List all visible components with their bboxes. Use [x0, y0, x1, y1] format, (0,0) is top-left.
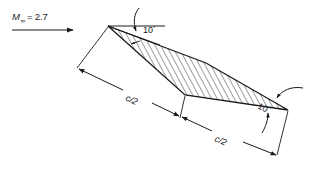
- airfoil-diagram-svg: M∞=2.7 10° 10°: [0, 0, 313, 178]
- trailing-edge-angle-arc-arrow-lower: [262, 113, 268, 133]
- aft-dim-line-right: [243, 142, 276, 155]
- le-angle-value: 10: [143, 25, 153, 35]
- forward-dim-extension-line-2: [180, 96, 185, 118]
- aft-dim-line-left: [182, 117, 212, 131]
- aft-dim-label: c/2: [213, 134, 228, 148]
- aft-chord-dimension-group: c/2: [182, 111, 288, 155]
- mach-value: 2.7: [35, 11, 48, 22]
- trailing-edge-angle-group: 10°: [256, 87, 303, 133]
- trailing-edge-angle-arc-arrow-upper: [277, 87, 303, 98]
- forward-dim-line-left: [79, 69, 123, 90]
- leading-edge-angle-arc-arrow: [134, 8, 139, 31]
- leading-edge-angle-label: 10°: [143, 25, 156, 35]
- mach-symbol: M∞=2.7: [12, 11, 48, 24]
- forward-dim-label: c/2: [124, 93, 139, 107]
- forward-dim-line-right: [152, 103, 179, 116]
- mach-letter: M: [12, 11, 20, 22]
- mach-equals: =: [27, 11, 33, 22]
- freestream-label-group: M∞=2.7: [12, 11, 73, 30]
- aft-dim-extension-line: [277, 111, 288, 155]
- forward-dim-extension-line: [77, 27, 108, 68]
- diagram-canvas: M∞=2.7 10° 10°: [0, 0, 313, 178]
- mach-infinity-subscript: ∞: [20, 17, 25, 24]
